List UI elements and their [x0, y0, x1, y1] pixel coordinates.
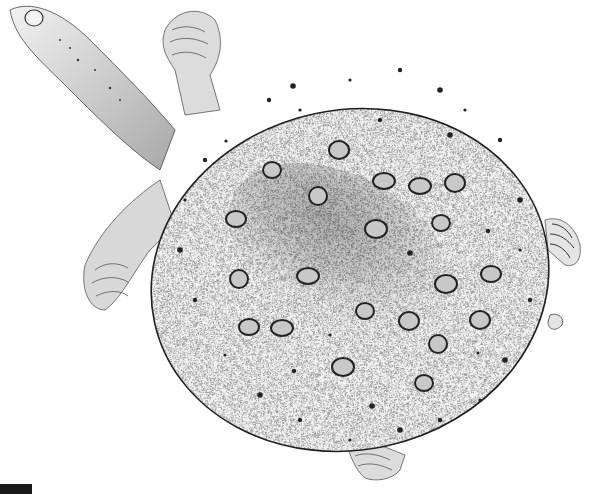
- ocellus-spot: [263, 162, 281, 178]
- shell-dot: [378, 118, 382, 122]
- ocellus-spot: [432, 215, 450, 231]
- caption-bar: [0, 484, 589, 494]
- shell-dot: [257, 392, 263, 398]
- shell-dot: [328, 333, 331, 336]
- shell-dot: [437, 87, 443, 93]
- shell-dot: [478, 398, 481, 401]
- shell-dot: [438, 418, 442, 422]
- shell: [119, 68, 581, 488]
- shell-dot: [290, 83, 296, 89]
- ocellus-spot: [297, 268, 319, 284]
- ocellus-spot: [429, 335, 447, 353]
- shell-dot: [177, 247, 183, 253]
- shell-dot: [502, 357, 508, 363]
- ocellus-spot: [470, 311, 490, 329]
- ocellus-spot: [309, 187, 327, 205]
- shell-dot: [517, 197, 523, 203]
- ocellus-spot: [409, 178, 431, 194]
- head-and-neck: [10, 6, 175, 170]
- ocellus-spot: [230, 270, 248, 288]
- ocellus-spot: [332, 358, 354, 376]
- ocellus-spot: [329, 141, 349, 159]
- shell-dot: [292, 369, 296, 373]
- shell-dot: [267, 98, 271, 102]
- shell-dot: [398, 68, 402, 72]
- ocellus-spot: [399, 312, 419, 330]
- ocellus-spot: [271, 320, 293, 336]
- shell-dot: [369, 403, 375, 409]
- ocellus-spot: [239, 319, 259, 335]
- shell-dot: [224, 139, 227, 142]
- shell-dot: [476, 351, 479, 354]
- eye-icon: [25, 10, 43, 26]
- ocellus-spot: [445, 174, 465, 192]
- ocellus-spot: [226, 211, 246, 227]
- shell-dot: [486, 229, 490, 233]
- rear-right-flipper: [545, 219, 580, 330]
- shell-dot: [518, 248, 521, 251]
- shell-dot: [498, 138, 502, 142]
- ocellus-spot: [356, 303, 374, 319]
- ocellus-spot: [373, 173, 395, 189]
- turtle-illustration: [0, 0, 589, 494]
- shell-dot: [183, 198, 186, 201]
- caption-block: [0, 484, 32, 494]
- shell-dot: [193, 298, 197, 302]
- shell-dot: [348, 438, 351, 441]
- shell-dot: [223, 353, 226, 356]
- shell-dot: [407, 250, 413, 256]
- shell-dot: [397, 427, 403, 433]
- ocellus-spot: [365, 220, 387, 238]
- shell-dot: [447, 132, 453, 138]
- shell-dot: [348, 78, 351, 81]
- shell-dot: [298, 418, 302, 422]
- shell-dot: [203, 158, 207, 162]
- ocellus-spot: [415, 375, 433, 391]
- shell-dot: [528, 298, 532, 302]
- shell-dot: [463, 108, 466, 111]
- front-right-flipper: [163, 11, 220, 115]
- shell-dot: [298, 108, 301, 111]
- ocellus-spot: [481, 266, 501, 282]
- ocellus-spot: [435, 275, 457, 293]
